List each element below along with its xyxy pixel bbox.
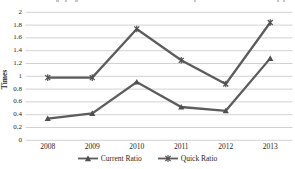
legend-label: Current Ratio bbox=[101, 154, 142, 163]
x-tick-label: 2012 bbox=[218, 143, 233, 151]
chart-legend: Current Ratio Quick Ratio bbox=[0, 154, 295, 163]
data-point-marker bbox=[268, 19, 273, 26]
y-tick-label: 1.6 bbox=[0, 34, 22, 41]
series-line-quick-ratio bbox=[48, 23, 271, 84]
y-tick-label: 2 bbox=[0, 9, 22, 16]
data-point-marker bbox=[134, 79, 140, 85]
y-tick-label: 0.2 bbox=[0, 124, 22, 131]
y-tick-label: 1.4 bbox=[0, 47, 22, 54]
y-tick-label: 0.4 bbox=[0, 111, 22, 118]
data-point-marker bbox=[267, 55, 273, 61]
x-tick-label: 2011 bbox=[174, 143, 189, 151]
x-tick-label: 2010 bbox=[129, 143, 144, 151]
ratio-line-chart: 00.20.40.60.811.21.41.61.82 Times 200820… bbox=[0, 0, 295, 169]
x-tick-label: 2013 bbox=[263, 143, 278, 151]
legend-label: Quick Ratio bbox=[181, 154, 217, 163]
y-tick-label: 0 bbox=[0, 137, 22, 144]
y-tick-label: 1.8 bbox=[0, 22, 22, 29]
y-tick-label: 0.6 bbox=[0, 98, 22, 105]
triangle-marker-icon bbox=[78, 154, 98, 163]
y-axis-title: Times bbox=[0, 64, 9, 96]
legend-entry-current-ratio: Current Ratio bbox=[78, 154, 142, 163]
x-tick-label: 2008 bbox=[40, 143, 55, 151]
legend-entry-quick-ratio: Quick Ratio bbox=[158, 154, 217, 163]
star-marker-icon bbox=[158, 154, 178, 163]
x-tick-label: 2009 bbox=[85, 143, 100, 151]
